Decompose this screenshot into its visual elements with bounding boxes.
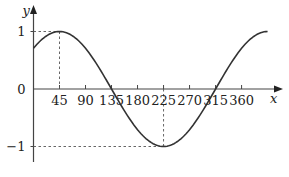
x-tick-label: 45 xyxy=(51,93,68,108)
x-tick-label: 90 xyxy=(77,93,94,108)
x-tick-label: 135 xyxy=(99,93,124,108)
tick-labels: 459013518022527031536010−1yx xyxy=(6,3,278,154)
axes xyxy=(30,5,283,162)
y-axis-arrow-icon xyxy=(30,5,37,14)
x-tick-label: 270 xyxy=(177,93,202,108)
x-tick-label: 315 xyxy=(203,93,228,108)
y-tick-label: −1 xyxy=(6,139,25,154)
sine-graph: 459013518022527031536010−1yx xyxy=(0,0,289,177)
y-tick-label: 1 xyxy=(17,24,25,39)
y-axis-label: y xyxy=(22,3,31,18)
x-tick-label: 225 xyxy=(151,93,176,108)
x-tick-label: 180 xyxy=(125,93,150,108)
y-tick-label: 0 xyxy=(17,82,25,97)
x-tick-label: 360 xyxy=(229,93,254,108)
x-axis-label: x xyxy=(270,91,278,106)
